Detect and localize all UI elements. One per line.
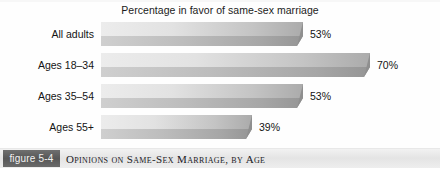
- bar-ages-55-plus[interactable]: [101, 115, 255, 142]
- bar-row: All adults: [0, 22, 440, 53]
- value-label: 70%: [377, 59, 398, 71]
- value-label: 53%: [310, 28, 331, 40]
- bar-row: Ages 18–34: [0, 53, 440, 84]
- category-label: All adults: [0, 28, 94, 40]
- category-label: Ages 55+: [0, 121, 94, 133]
- category-label: Ages 18–34: [0, 59, 94, 71]
- scan-edge-bottom: [0, 168, 440, 173]
- bar-row: Ages 35–54: [0, 84, 440, 115]
- value-label: 39%: [259, 121, 280, 133]
- bar-ages-35-54[interactable]: [101, 84, 306, 111]
- scan-edge-top: [0, 0, 440, 2]
- bar-ages-18-34[interactable]: [101, 53, 373, 80]
- value-label: 53%: [310, 90, 331, 102]
- figure-caption-text: Opinions on Same-Sex Marriage, by Age: [66, 151, 265, 167]
- figure-container: Percentage in favor of same-sex marriage…: [0, 0, 440, 173]
- caption-band: figure 5-4 Opinions on Same-Sex Marriage…: [0, 148, 440, 169]
- bar-all-adults[interactable]: [101, 22, 306, 49]
- category-label: Ages 35–54: [0, 90, 94, 102]
- chart-title: Percentage in favor of same-sex marriage: [0, 4, 440, 16]
- figure-number-tag: figure 5-4: [3, 150, 60, 167]
- bar-row: Ages 55+: [0, 115, 440, 146]
- plot-area: All adults: [0, 22, 440, 146]
